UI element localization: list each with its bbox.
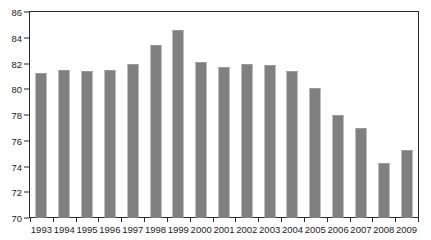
bar	[36, 73, 47, 218]
y-axis-tick-label: 80	[11, 84, 22, 95]
bar	[355, 128, 366, 218]
bar	[401, 150, 412, 218]
bar-slot	[350, 12, 373, 218]
x-axis-tick-label: 1995	[76, 224, 97, 235]
x-axis-tick-label: 2002	[236, 224, 257, 235]
bar-slot	[235, 12, 258, 218]
x-axis-tick-mark	[235, 218, 236, 222]
x-axis-tick-label: 1997	[122, 224, 143, 235]
x-axis-tick-label: 2001	[213, 224, 234, 235]
bar	[104, 70, 115, 218]
x-axis-tick-label: 1993	[31, 224, 52, 235]
y-axis-tick-label: 70	[11, 213, 22, 224]
x-axis-tick-label: 1998	[145, 224, 166, 235]
bars-container	[30, 12, 418, 218]
bar	[287, 71, 298, 218]
y-axis-tick-label: 74	[11, 161, 22, 172]
bar	[173, 30, 184, 218]
x-axis-tick-label: 1994	[54, 224, 75, 235]
bar	[378, 163, 389, 218]
x-axis-tick-label: 2000	[191, 224, 212, 235]
bar	[150, 45, 161, 218]
bar-slot	[30, 12, 53, 218]
x-axis-tick-label: 2008	[373, 224, 394, 235]
bar-slot	[304, 12, 327, 218]
bar	[127, 64, 138, 219]
x-axis-tick-mark	[304, 218, 305, 222]
x-axis-tick-mark	[121, 218, 122, 222]
x-axis-tick-label: 2004	[282, 224, 303, 235]
bar-slot	[121, 12, 144, 218]
bar-slot	[76, 12, 99, 218]
x-axis-tick-mark	[76, 218, 77, 222]
y-axis-tick-label: 84	[11, 32, 22, 43]
bar-slot	[167, 12, 190, 218]
clipped-caption-text	[18, 0, 318, 4]
y-axis-tick-label: 82	[11, 58, 22, 69]
x-axis-tick-mark	[258, 218, 259, 222]
x-axis-tick-label: 1996	[99, 224, 120, 235]
x-axis-tick-label: 2005	[305, 224, 326, 235]
x-axis-tick-label: 2003	[259, 224, 280, 235]
bar-chart: 707274767880828486 199319941995199619971…	[0, 0, 431, 240]
bar	[196, 62, 207, 218]
bar	[218, 67, 229, 218]
bar-slot	[98, 12, 121, 218]
y-axis: 707274767880828486	[0, 0, 29, 240]
x-axis-tick-mark	[418, 218, 419, 222]
bar-slot	[281, 12, 304, 218]
bar-slot	[395, 12, 418, 218]
x-axis-tick-mark	[372, 218, 373, 222]
bar	[241, 64, 252, 219]
y-axis-tick-label: 78	[11, 110, 22, 121]
x-axis-tick-mark	[281, 218, 282, 222]
x-axis-tick-mark	[144, 218, 145, 222]
y-axis-tick-label: 72	[11, 187, 22, 198]
bar	[310, 88, 321, 218]
y-axis-tick-label: 86	[11, 7, 22, 18]
bar-slot	[190, 12, 213, 218]
bar-slot	[144, 12, 167, 218]
x-axis-tick-mark	[350, 218, 351, 222]
bar	[264, 65, 275, 218]
bar-slot	[372, 12, 395, 218]
bar	[82, 71, 93, 218]
x-axis-tick-mark	[213, 218, 214, 222]
x-axis-tick-mark	[395, 218, 396, 222]
bar-slot	[213, 12, 236, 218]
x-axis-tick-mark	[30, 218, 31, 222]
x-axis-tick-label: 1999	[168, 224, 189, 235]
x-axis: 1993199419951996199719981999200020012002…	[30, 218, 418, 240]
x-axis-tick-label: 2006	[328, 224, 349, 235]
x-axis-tick-label: 2007	[350, 224, 371, 235]
bar	[59, 70, 70, 218]
x-axis-tick-mark	[98, 218, 99, 222]
bar-slot	[53, 12, 76, 218]
bar	[333, 115, 344, 218]
x-axis-tick-mark	[167, 218, 168, 222]
x-axis-tick-mark	[327, 218, 328, 222]
bar-slot	[258, 12, 281, 218]
x-axis-tick-mark	[190, 218, 191, 222]
y-axis-tick-label: 76	[11, 135, 22, 146]
x-axis-tick-label: 2009	[396, 224, 417, 235]
bar-slot	[327, 12, 350, 218]
x-axis-tick-mark	[53, 218, 54, 222]
